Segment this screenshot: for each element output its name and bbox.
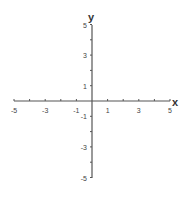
x-tick-label: -3 — [42, 107, 48, 114]
y-tick-label: -3 — [81, 144, 87, 151]
x-axis-label: x — [172, 96, 179, 108]
y-tick-label: -5 — [81, 175, 87, 182]
coordinate-plane: -5-3-1135531-1-3-5 x y — [0, 0, 187, 197]
x-tick-label: -1 — [73, 107, 79, 114]
x-tick-label: -5 — [11, 107, 17, 114]
y-tick-label: 1 — [83, 83, 87, 90]
x-tick-label: 1 — [106, 107, 110, 114]
y-axis-label: y — [88, 11, 95, 23]
y-tick-label: 5 — [83, 22, 87, 29]
y-tick-label: 3 — [83, 52, 87, 59]
x-tick-label: 5 — [168, 107, 172, 114]
y-tick-label: -1 — [81, 113, 87, 120]
x-tick-label: 3 — [137, 107, 141, 114]
